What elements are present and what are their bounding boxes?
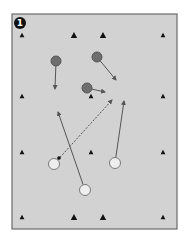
defender-player xyxy=(51,56,61,66)
step-badge: 1 xyxy=(14,17,26,29)
defender-player xyxy=(82,83,92,93)
drill-diagram: 1 xyxy=(0,0,189,241)
attacker-player xyxy=(80,185,91,196)
pitch-field xyxy=(12,14,177,229)
ball xyxy=(57,156,61,160)
attacker-player xyxy=(110,158,121,169)
defender-player xyxy=(92,52,102,62)
attacker-player xyxy=(49,159,60,170)
step-badge-number: 1 xyxy=(17,18,23,28)
